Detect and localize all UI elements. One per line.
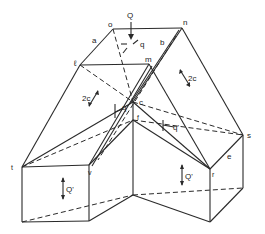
label-2c-left: 2c [82,94,90,103]
label-n: n [183,18,187,27]
edge-m-r [149,64,210,169]
folded-roof-diagram: o n ℓ m c f s r e t v a b Q q 2c 2c q' q… [0,0,265,234]
label-e: e [227,152,232,161]
edge-t-v [22,165,89,167]
label-b: b [160,38,165,47]
edge-m-v-double [92,66,152,166]
label-v: v [88,169,92,176]
edge-l-t [22,65,80,167]
label-t: t [11,164,13,171]
edge-c-r [133,102,210,169]
arrow-q-3 [123,48,127,53]
label-q: q [140,40,144,49]
label-f: f [137,114,139,121]
label-Q: Q [127,11,133,20]
label-qprime-left: q' [122,103,128,112]
label-qprime-right: q' [173,123,179,132]
label-m: m [145,55,152,64]
hidden-o-c [113,29,133,102]
edge-bottom-t-v [22,221,89,222]
arrow-Qprime-right-up [180,164,184,169]
edge-f-v [89,120,133,165]
edge-bottom-r-s [210,188,243,222]
hidden-bottom-t-f [22,195,133,222]
label-c: c [139,98,143,107]
edge-o-l [80,29,113,65]
arrow-q-1 [133,40,138,44]
label-Qprime-right: Q' [185,172,193,181]
vertex-labels: o n ℓ m c f s r e t v [11,18,251,178]
hidden-bottom-f-s [133,188,243,195]
label-o: o [108,20,113,29]
edge-o-n [113,28,182,29]
label-l: ℓ [73,59,77,68]
hidden-t-f [22,120,133,167]
label-Qprime-left: Q' [66,185,74,194]
label-2c-right: 2c [188,74,196,83]
edge-m-v [89,64,149,165]
label-s: s [247,131,251,140]
edge-bottom-f-r [133,195,210,222]
arrow-Qprime-left-down [61,195,65,200]
arrow-Qprime-left-up [61,177,65,182]
arrow-Q-head [128,34,134,40]
edge-bottom-v-f [89,195,133,221]
label-r: r [212,171,215,178]
edge-l-m [80,64,149,65]
edge-f-r [133,120,210,169]
hidden-f-s [133,120,243,135]
arrow-Qprime-right-down [180,181,184,186]
label-a: a [92,36,97,45]
